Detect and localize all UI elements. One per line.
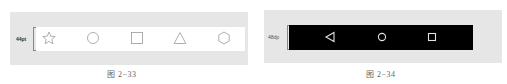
- figure-caption: 图 2−34: [366, 68, 396, 79]
- square-icon[interactable]: [130, 31, 144, 45]
- hexagon-icon[interactable]: [217, 31, 231, 45]
- home-circle-icon[interactable]: [375, 30, 389, 44]
- triangle-icon[interactable]: [173, 31, 187, 45]
- figure-caption: 图 2−33: [107, 68, 137, 79]
- back-triangle-icon[interactable]: [323, 30, 337, 44]
- dimension-label: 48dp: [268, 34, 279, 40]
- star-icon[interactable]: [42, 31, 56, 45]
- recents-square-icon[interactable]: [425, 30, 439, 44]
- dimension-label: 44pt: [16, 36, 26, 42]
- circle-icon[interactable]: [86, 31, 100, 45]
